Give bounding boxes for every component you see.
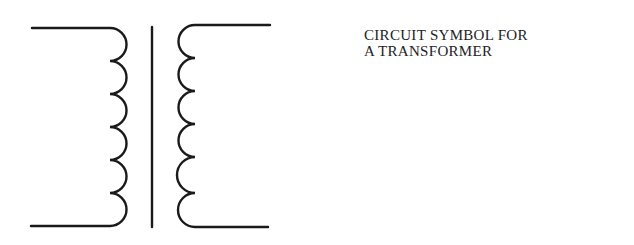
primary-coil [31,28,127,226]
diagram-caption: CIRCUIT SYMBOL FOR A TRANSFORMER [364,27,528,59]
caption-line-1: CIRCUIT SYMBOL FOR [364,27,528,43]
transformer-symbol [0,0,340,245]
secondary-coil [177,25,270,227]
caption-line-2: A TRANSFORMER [364,43,528,59]
